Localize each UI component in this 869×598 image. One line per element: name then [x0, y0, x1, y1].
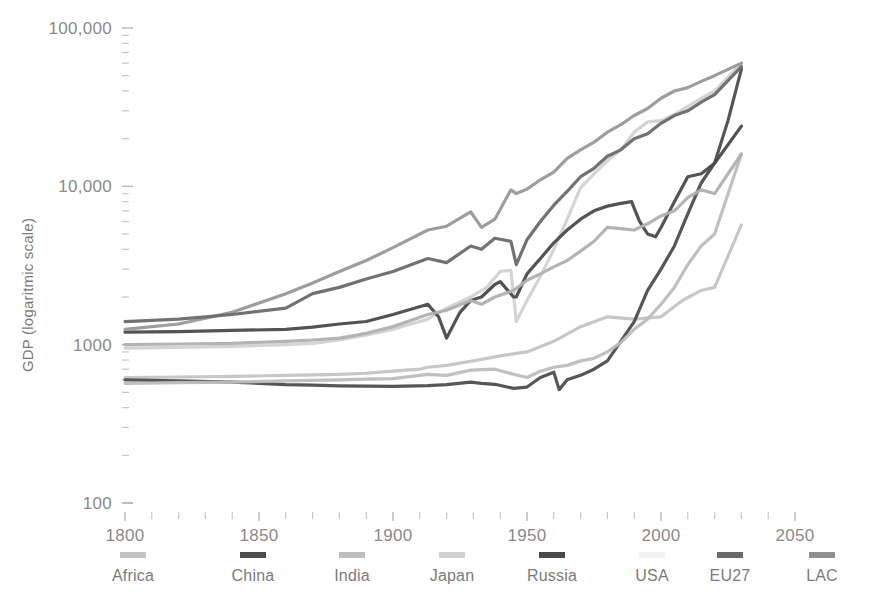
- y-tick-label: 100,000: [48, 19, 112, 38]
- legend-swatch-china: [240, 552, 266, 558]
- legend-label-india: India: [334, 567, 370, 584]
- series-line-russia: [125, 126, 741, 338]
- y-axis-title-text: GDP (logaritmic scale): [19, 218, 36, 372]
- y-axis-title: GDP (logaritmic scale): [19, 218, 36, 372]
- x-tick-label: 1900: [373, 526, 412, 545]
- legend-swatch-japan: [439, 552, 465, 558]
- x-axis-ticks: [125, 512, 795, 521]
- legend-label-eu27: EU27: [710, 567, 751, 584]
- chart-legend: AfricaChinaIndiaJapanRussiaUSAEU27LAC: [112, 552, 838, 584]
- y-tick-label: 100: [83, 494, 112, 513]
- legend-label-japan: Japan: [430, 567, 475, 584]
- y-tick-label: 10,000: [58, 177, 112, 196]
- legend-swatch-africa: [120, 552, 146, 558]
- legend-swatch-usa: [639, 552, 665, 558]
- x-axis-tick-labels: 180018501900195020002050: [105, 526, 814, 545]
- legend-swatch-russia: [539, 552, 565, 558]
- x-tick-label: 1800: [105, 526, 144, 545]
- chart-canvas: 100100010,000100,000 1800185019001950200…: [0, 0, 869, 598]
- legend-label-africa: Africa: [112, 567, 154, 584]
- y-tick-label: 1000: [73, 336, 112, 355]
- series-line-india: [125, 154, 741, 383]
- legend-label-russia: Russia: [527, 567, 577, 584]
- x-tick-label: 1950: [507, 526, 546, 545]
- legend-swatch-eu27: [717, 552, 743, 558]
- legend-label-usa: USA: [635, 567, 669, 584]
- gdp-line-chart: 100100010,000100,000 1800185019001950200…: [0, 0, 869, 598]
- series-line-africa: [125, 225, 741, 378]
- y-axis-tick-labels: 100100010,000100,000: [48, 19, 112, 513]
- series-lines: [125, 63, 741, 390]
- series-line-eu27: [125, 67, 741, 322]
- y-axis-ticks: [122, 28, 133, 503]
- legend-swatch-india: [339, 552, 365, 558]
- legend-swatch-lac: [809, 552, 835, 558]
- x-tick-label: 1850: [239, 526, 278, 545]
- x-tick-label: 2050: [775, 526, 814, 545]
- legend-label-china: China: [232, 567, 275, 584]
- x-tick-label: 2000: [641, 526, 680, 545]
- legend-label-lac: LAC: [806, 567, 838, 584]
